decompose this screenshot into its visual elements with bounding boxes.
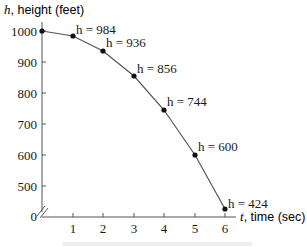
x-axis-label: t, time (sec): [240, 209, 305, 224]
figure-caption: [62, 242, 252, 246]
x-tick-label: 4: [161, 221, 168, 236]
y-tick-label: 900: [18, 55, 38, 70]
data-point: [161, 107, 166, 112]
annotation: h = 424: [228, 196, 268, 211]
data-point: [39, 28, 44, 33]
y-tick-label: 800: [18, 86, 38, 101]
annotation: h = 936: [106, 35, 146, 50]
y-tick-label: 0: [31, 209, 38, 224]
data-point: [222, 206, 227, 211]
data-point: [192, 152, 197, 157]
y-axis-label: h, height (feet): [4, 2, 84, 17]
data-line: [42, 31, 225, 209]
x-tick-label: 6: [222, 221, 229, 236]
y-ticks: [42, 31, 46, 186]
x-tick-label: 2: [100, 221, 107, 236]
data-point: [131, 73, 136, 78]
x-ticks: [73, 213, 225, 217]
data-point: [100, 48, 105, 53]
x-tick-label: 1: [70, 221, 77, 236]
annotation: h = 744: [167, 94, 207, 109]
x-tick-label: 5: [192, 221, 199, 236]
data-points: [39, 28, 227, 211]
annotation: h = 856: [137, 61, 177, 76]
data-point: [70, 33, 75, 38]
y-tick-label: 700: [18, 117, 38, 132]
annotation: h = 600: [198, 139, 238, 154]
y-tick-label: 600: [18, 148, 38, 163]
x-tick-label: 3: [131, 221, 138, 236]
y-tick-label: 500: [18, 179, 38, 194]
chart: 1000 900 800 700 600 500 0 1 2 3 4 5 6 h…: [0, 0, 307, 247]
y-tick-label: 1000: [11, 24, 37, 39]
